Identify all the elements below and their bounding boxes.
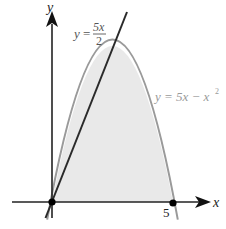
origin-point (48, 198, 55, 205)
shaded-region (52, 46, 173, 202)
parabola-label: y = 5x − x 2 (153, 87, 219, 104)
line-label: y = 5x 2 (72, 20, 106, 48)
y-axis-label: y (45, 0, 54, 15)
svg-text:5x: 5x (93, 20, 105, 34)
x-tick-5: 5 (163, 205, 170, 220)
svg-text:2: 2 (215, 87, 219, 96)
area-diagram: y x 5 y = 5x 2 y = 5x − x 2 (0, 0, 226, 229)
svg-text:= 5x − x: = 5x − x (164, 89, 210, 104)
svg-text:=: = (83, 26, 90, 41)
svg-text:2: 2 (96, 34, 102, 48)
x-axis-label: x (212, 195, 220, 210)
svg-text:y: y (153, 89, 161, 104)
svg-text:y: y (72, 26, 80, 41)
root-point (169, 199, 176, 206)
